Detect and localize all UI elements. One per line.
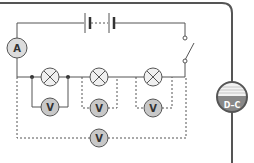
ammeter-icon: A: [7, 38, 27, 58]
voltmeter-1-icon: V: [41, 98, 59, 116]
lamp-3-icon: [144, 68, 162, 86]
svg-text:V: V: [95, 133, 103, 144]
svg-text:V: V: [95, 103, 103, 114]
battery-icon: [85, 13, 114, 33]
voltmeter-3-icon: V: [144, 99, 162, 117]
svg-text:D–C: D–C: [224, 101, 241, 110]
lamp-2-icon: [90, 68, 108, 86]
svg-text:V: V: [46, 102, 54, 113]
switch-icon: [183, 36, 194, 63]
voltmeter-total-icon: V: [90, 129, 108, 147]
voltmeter-2-icon: V: [90, 99, 108, 117]
svg-text:V: V: [149, 103, 157, 114]
frame-border: [0, 3, 232, 163]
lamp-1-icon: [41, 68, 59, 86]
svg-text:A: A: [13, 43, 21, 54]
circuit-diagram: A V V V V: [0, 0, 254, 163]
dc-badge: D–C: [215, 82, 250, 116]
